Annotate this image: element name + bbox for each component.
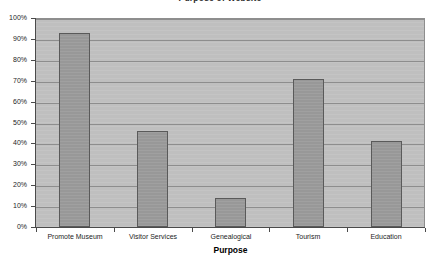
bar: [371, 141, 402, 227]
bar: [293, 79, 324, 227]
y-axis-tick: [31, 206, 36, 207]
gridline: [36, 144, 424, 145]
gridline: [36, 19, 424, 20]
bar: [137, 131, 168, 227]
y-axis-tick-label: 60%: [0, 98, 27, 105]
y-axis-tick: [31, 185, 36, 186]
y-axis-tick-label: 100%: [0, 14, 27, 21]
x-axis-tick: [114, 228, 115, 232]
bar: [59, 33, 90, 227]
gridline: [36, 186, 424, 187]
x-axis-tick: [425, 228, 426, 232]
chart-title: Purpose of Website: [0, 0, 440, 3]
gridline: [36, 124, 424, 125]
gridline: [36, 103, 424, 104]
x-axis-tick-label: Tourism: [269, 233, 347, 240]
y-axis-tick: [31, 60, 36, 61]
x-axis-tick-label: Visitor Services: [114, 233, 192, 240]
y-axis-tick-label: 30%: [0, 160, 27, 167]
y-axis-tick-label: 40%: [0, 139, 27, 146]
plot-area: [36, 18, 425, 227]
y-axis-tick: [31, 39, 36, 40]
x-axis-line: [35, 227, 425, 228]
y-axis-tick-label: 0%: [0, 223, 27, 230]
x-axis-tick: [269, 228, 270, 232]
gridline: [36, 82, 424, 83]
y-axis-tick-label: 50%: [0, 119, 27, 126]
x-axis-tick-label: Education: [347, 233, 425, 240]
bar: [215, 198, 246, 227]
x-axis-tick: [347, 228, 348, 232]
y-axis-tick-label: 10%: [0, 202, 27, 209]
y-axis-tick-label: 90%: [0, 35, 27, 42]
y-axis-tick: [31, 123, 36, 124]
gridline: [36, 61, 424, 62]
x-axis-tick-label: Genealogical: [192, 233, 270, 240]
y-axis-tick: [31, 143, 36, 144]
y-axis-tick-label: 70%: [0, 77, 27, 84]
x-axis-tick-label: Promote Museum: [36, 233, 114, 240]
y-axis-tick: [31, 81, 36, 82]
gridline: [36, 165, 424, 166]
y-axis-tick-label: 80%: [0, 56, 27, 63]
y-axis-tick: [31, 18, 36, 19]
y-axis-tick: [31, 102, 36, 103]
gridline: [36, 40, 424, 41]
y-axis-tick-label: 20%: [0, 181, 27, 188]
x-axis-tick: [192, 228, 193, 232]
x-axis-title: Purpose: [36, 245, 425, 255]
x-axis-tick: [36, 228, 37, 232]
y-axis-tick: [31, 164, 36, 165]
